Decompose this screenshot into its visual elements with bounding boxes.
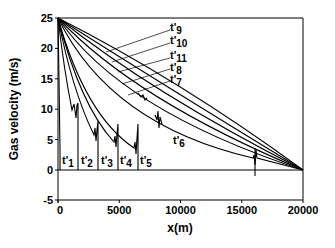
x-axis-label: x(m) [167,221,192,235]
x-tick-label: 15000 [226,204,257,216]
label-t3: t'3 [101,154,113,169]
gas-velocity-chart: 25 20 15 10 5 0 -5 0 5000 10000 15000 20… [0,0,335,248]
curve-labels-bottom: t'1 t'2 t'3 t'4 t'5 [62,154,152,169]
y-tick-label: -5 [43,194,53,206]
x-tick-label: 20000 [288,204,319,216]
y-tick-label: 5 [47,134,53,146]
y-axis-tick-labels: 25 20 15 10 5 0 -5 [41,12,53,206]
label-t10: t'10 [170,34,188,49]
oscillation-b [155,111,162,128]
leader-lines [106,30,170,95]
label-t2: t'2 [81,154,93,169]
label-t4: t'4 [120,154,132,169]
label-t6: t'6 [173,134,185,149]
y-tick-label: 0 [47,164,53,176]
x-tick-label: 0 [57,204,63,216]
label-t5: t'5 [140,154,152,169]
y-axis-label: Gas velocity (m/s) [7,58,21,161]
y-tick-label: 25 [41,12,53,24]
x-tick-label: 5000 [107,204,131,216]
y-tick-label: 20 [41,42,53,54]
label-t1: t'1 [62,154,74,169]
curve-labels-right: t'9 t'10 t'11 t'8 t'7 [170,21,188,88]
y-tick-label: 15 [41,73,53,85]
x-tick-label: 10000 [165,204,196,216]
x-axis-tick-labels: 0 5000 10000 15000 20000 [57,204,318,216]
y-tick-label: 10 [41,103,53,115]
